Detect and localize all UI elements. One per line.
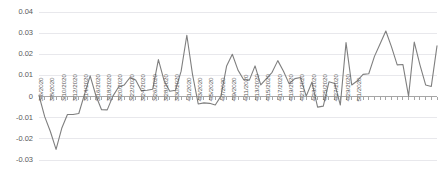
x-axis-tick-label: 3/18/2020 bbox=[105, 73, 112, 101]
y-axis-tick-label: -0.03 bbox=[16, 155, 33, 164]
x-axis-tick-label: 3/14/2020 bbox=[82, 73, 89, 101]
x-axis-tick-label: 3/10/2020 bbox=[60, 73, 67, 101]
x-axis-tick-label: 3/26/2020 bbox=[151, 73, 158, 101]
x-axis-tick-label: 3/6/2020 bbox=[37, 77, 44, 102]
y-axis-tick-label: 0.04 bbox=[18, 7, 33, 16]
y-axis-tick-label: 0 bbox=[29, 92, 33, 101]
x-axis-tick-label: 4/17/2020 bbox=[276, 73, 283, 101]
x-axis-tick-label: 4/27/2020 bbox=[332, 73, 339, 101]
chart-plot-area: 0.040.030.020.010-0.01-0.02-0.03 3/6/202… bbox=[0, 0, 446, 180]
x-axis-tick-label: 4/19/2020 bbox=[287, 73, 294, 101]
x-axis-tick-label: 4/7/2020 bbox=[219, 77, 226, 102]
y-axis-tick-label: -0.02 bbox=[16, 134, 33, 143]
x-axis-tick-label: 4/5/2020 bbox=[207, 77, 214, 102]
x-axis-tick-label: 3/24/2020 bbox=[139, 73, 146, 101]
y-axis-tick-label: -0.01 bbox=[16, 113, 33, 122]
x-axis-tick-label: 4/13/2020 bbox=[253, 73, 260, 101]
x-axis-tick-label: 4/25/2020 bbox=[321, 73, 328, 101]
x-axis-tick-label: 3/16/2020 bbox=[94, 73, 101, 101]
x-axis-tick-label: 4/1/2020 bbox=[185, 77, 192, 102]
x-axis-tick-label: 3/22/2020 bbox=[128, 73, 135, 101]
y-axis-tick-label: 0.02 bbox=[18, 49, 33, 58]
x-axis-tick-label: 4/29/2020 bbox=[344, 73, 351, 101]
x-axis-tick-label: 3/8/2020 bbox=[48, 77, 55, 102]
x-axis-tick-label: 4/9/2020 bbox=[230, 77, 237, 102]
x-axis-tick-label: 4/15/2020 bbox=[264, 73, 271, 101]
x-axis-tick-label: 3/20/2020 bbox=[116, 73, 123, 101]
x-axis-tick-label: 4/3/2020 bbox=[196, 77, 203, 102]
y-axis-labels: 0.040.030.020.010-0.01-0.02-0.03 bbox=[16, 7, 33, 164]
x-axis-tick-label: 3/30/2020 bbox=[173, 73, 180, 101]
line-chart: 0.040.030.020.010-0.01-0.02-0.03 3/6/202… bbox=[0, 0, 446, 180]
x-axis-labels: 3/6/20203/8/20203/10/20203/12/20203/14/2… bbox=[37, 73, 362, 101]
x-axis-tick-label: 4/11/2020 bbox=[242, 74, 249, 102]
x-axis-tick-label: 5/1/2020 bbox=[355, 77, 362, 102]
x-axis-tick-label: 3/12/2020 bbox=[71, 73, 78, 101]
x-axis-tick-label: 3/28/2020 bbox=[162, 73, 169, 101]
y-axis-tick-label: 0.03 bbox=[18, 28, 33, 37]
y-axis-tick-label: 0.01 bbox=[18, 70, 33, 79]
x-axis-tick-label: 4/23/2020 bbox=[310, 73, 317, 101]
x-axis-tick-label: 4/21/2020 bbox=[298, 73, 305, 101]
